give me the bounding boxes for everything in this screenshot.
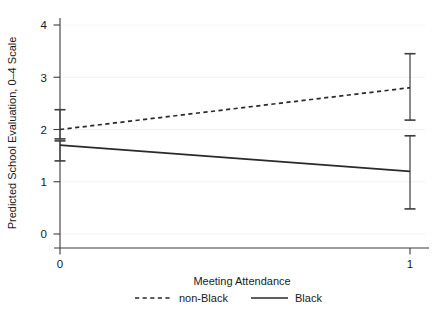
- line-non-black: [60, 88, 410, 130]
- y-tick-label-4: 4: [41, 19, 48, 31]
- legend-item-black[interactable]: Black: [251, 292, 322, 304]
- y-tick-label-3: 3: [41, 72, 47, 84]
- chart-canvas: 0 1 2 3 4 0 1 Predicted School Evaluatio…: [0, 0, 436, 313]
- series-black: [55, 136, 416, 209]
- errorbar-black-x0: [55, 141, 66, 161]
- legend-item-non-black[interactable]: non-Black: [135, 292, 228, 304]
- x-axis-ticks: [60, 248, 410, 255]
- chart-legend: non-Black Black: [135, 292, 322, 304]
- gridlines: [60, 25, 425, 234]
- y-axis-ticks: [54, 25, 61, 234]
- y-tick-label-1: 1: [41, 176, 47, 188]
- errorbar-non-black-x1: [405, 54, 416, 120]
- errorbar-black-x1: [405, 136, 416, 209]
- errorbar-non-black-x0: [55, 110, 66, 139]
- y-axis-title: Predicted School Evaluation, 0–4 Scale: [6, 37, 18, 230]
- x-axis-title: Meeting Attendance: [193, 275, 290, 287]
- series-non-black: [55, 54, 416, 139]
- x-tick-label-0: 0: [57, 258, 63, 270]
- legend-label-black: Black: [295, 292, 322, 304]
- y-tick-label-2: 2: [41, 124, 47, 136]
- chart-figure: 0 1 2 3 4 0 1 Predicted School Evaluatio…: [0, 0, 436, 313]
- line-black: [60, 145, 410, 171]
- y-tick-label-0: 0: [41, 228, 47, 240]
- legend-label-non-black: non-Black: [179, 292, 228, 304]
- x-tick-label-1: 1: [407, 258, 413, 270]
